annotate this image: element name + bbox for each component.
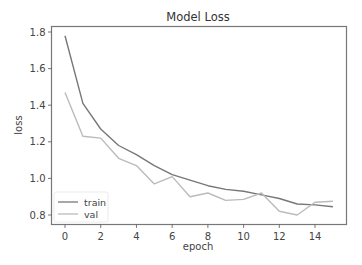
y-tick-label: 1.8 — [30, 27, 46, 38]
x-tick-label: 0 — [62, 231, 68, 242]
chart-title: Model Loss — [166, 10, 229, 24]
legend: train val — [54, 192, 108, 222]
legend-label-train: train — [84, 197, 106, 208]
x-tick-label: 14 — [309, 231, 322, 242]
x-tick-label: 12 — [273, 231, 286, 242]
y-tick-label: 1.4 — [30, 100, 46, 111]
x-tick-label: 8 — [205, 231, 211, 242]
loss-chart: Model Loss 0.81.01.21.41.61.8 0246810121… — [0, 0, 362, 265]
x-axis-ticks: 02468101214 — [62, 225, 322, 242]
x-axis-label: epoch — [183, 241, 213, 252]
y-axis-label: loss — [13, 115, 24, 134]
legend-label-val: val — [84, 209, 98, 220]
y-tick-label: 1.0 — [30, 173, 46, 184]
x-tick-label: 6 — [169, 231, 175, 242]
y-tick-label: 0.8 — [30, 210, 46, 221]
y-axis-ticks: 0.81.01.21.41.61.8 — [30, 27, 52, 221]
x-tick-label: 10 — [237, 231, 250, 242]
y-tick-label: 1.6 — [30, 63, 46, 74]
x-tick-label: 4 — [133, 231, 139, 242]
y-tick-label: 1.2 — [30, 136, 46, 147]
x-tick-label: 2 — [98, 231, 104, 242]
